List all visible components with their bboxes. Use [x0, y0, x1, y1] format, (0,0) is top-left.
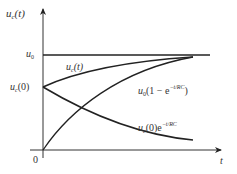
- x-axis-label: t: [220, 155, 223, 166]
- uc0-label: uc(0): [10, 81, 29, 93]
- origin-label: 0: [33, 154, 38, 165]
- y-axis-label: uc(t): [6, 7, 25, 21]
- discharging-curve: [43, 87, 193, 140]
- u0-label: u0: [26, 48, 34, 60]
- uc-t-curve-label: uc(t): [66, 61, 84, 73]
- rc-response-diagram: uc(t) u0 uc(0) 0 t uc(t) u0(1 − e−t/RC) …: [0, 0, 237, 174]
- charging-curve-label: u0(1 − e−t/RC): [138, 84, 188, 97]
- discharging-curve-label: uc(0)e−t/RC: [138, 121, 178, 134]
